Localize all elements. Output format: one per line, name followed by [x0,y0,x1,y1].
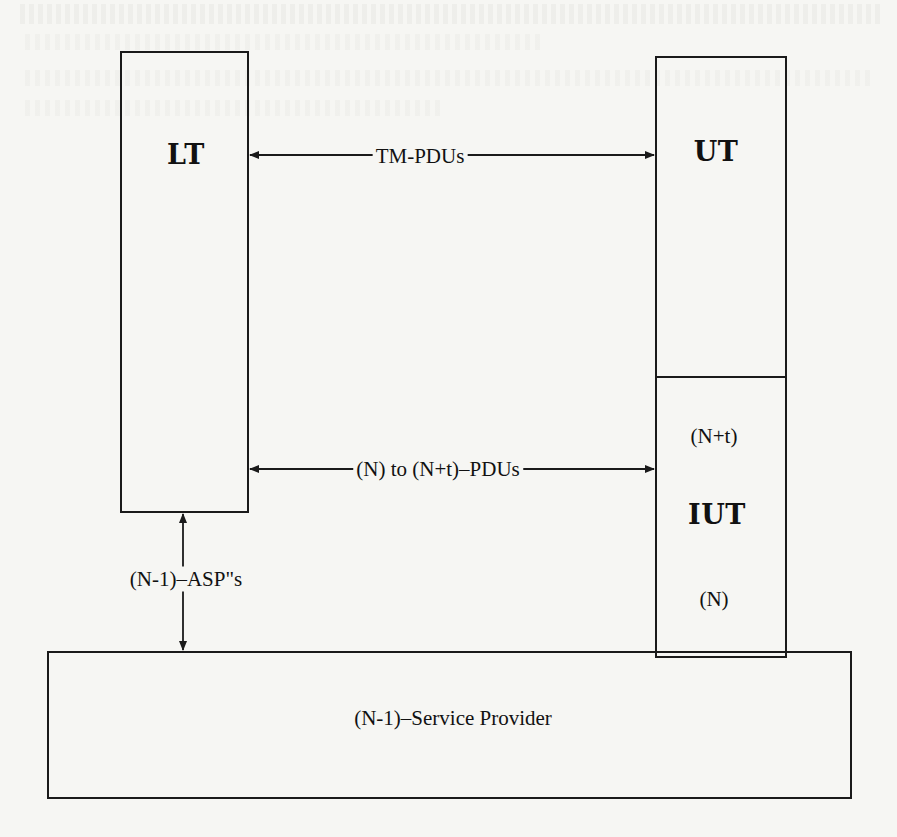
diagram-canvas: LT UT (N+t) IUT (N) (N-1)–Service Provid… [0,0,897,837]
asp-label: (N-1)–ASP"s [127,567,245,592]
connector-arrows [0,0,897,837]
n-pdus-label: (N) to (N+t)–PDUs [353,457,523,482]
tm-pdus-label: TM-PDUs [373,144,468,169]
